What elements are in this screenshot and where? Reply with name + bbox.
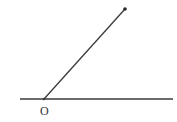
ray xyxy=(44,9,125,99)
vertex-label-o: O xyxy=(40,104,49,118)
ray-end-point xyxy=(123,7,127,11)
vertex-point-o xyxy=(43,98,46,101)
angle-diagram: O xyxy=(0,0,177,122)
